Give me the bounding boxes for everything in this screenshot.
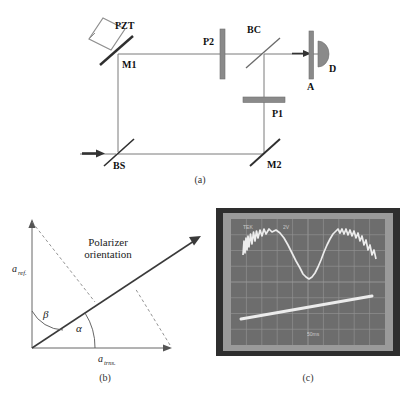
label-a-trns-sub: trns. — [104, 359, 116, 366]
angle-arc-alpha — [85, 313, 95, 348]
vector-a-ref — [28, 219, 35, 348]
scope-annotation-bottom-center: 50ms — [307, 331, 320, 337]
label-a-ref-base: a — [12, 263, 17, 274]
output-beam-arrow-icon — [292, 50, 311, 57]
caption-panel-a: (a) — [194, 174, 205, 186]
panel-a: PZT M1 P2 BC A D P1 BS M2 — [80, 18, 336, 186]
label-bs: BS — [113, 160, 126, 171]
figure-svg: PZT M1 P2 BC A D P1 BS M2 — [0, 0, 416, 394]
panel-c: TEK 2V 50ms (c) — [216, 208, 400, 384]
label-polarizer-line1: Polarizer — [88, 236, 128, 248]
polarizer-p2-icon — [220, 29, 225, 79]
scope-annotation-top-left: TEK — [243, 224, 253, 230]
scope-annotation-top-center: 2V — [283, 224, 290, 230]
label-alpha: α — [76, 322, 82, 334]
label-d: D — [329, 63, 336, 74]
polarizer-p1-icon — [243, 97, 285, 103]
label-bc: BC — [247, 24, 261, 35]
label-a-ref: a ref. — [12, 263, 27, 276]
label-polarizer-line2: orientation — [84, 248, 132, 260]
input-beam-arrow-icon — [82, 150, 105, 158]
label-a: A — [307, 81, 315, 92]
panel-b: α β a ref. a trns. Polarizer orientation… — [12, 219, 201, 384]
caption-panel-b: (b) — [99, 372, 111, 384]
label-p1: P1 — [272, 108, 283, 119]
label-m2: M2 — [267, 159, 281, 170]
label-a-trns-base: a — [98, 353, 103, 364]
figure-root: PZT M1 P2 BC A D P1 BS M2 — [0, 0, 416, 394]
label-beta: β — [42, 308, 49, 320]
label-m1: M1 — [122, 59, 136, 70]
beam-combiner-bc-icon — [246, 38, 280, 68]
vector-a-trns — [32, 344, 172, 351]
label-p2: P2 — [203, 36, 214, 47]
construction-line-from-a-trns — [135, 288, 170, 345]
aperture-a-icon — [309, 31, 314, 79]
label-pzt: PZT — [115, 20, 135, 31]
caption-panel-c: (c) — [302, 372, 313, 384]
label-a-ref-sub: ref. — [18, 269, 27, 276]
arrowhead-a-trns-icon — [163, 344, 172, 351]
label-a-trns: a trns. — [98, 353, 116, 366]
arrowhead-a-ref-icon — [28, 219, 35, 228]
arrowhead-polarizer-icon — [189, 236, 201, 246]
detector-d-icon — [318, 41, 329, 67]
construction-line-from-a-ref — [32, 222, 95, 302]
